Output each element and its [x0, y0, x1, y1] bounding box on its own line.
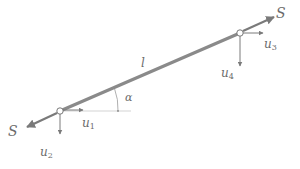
- displacement-label-u4: u4: [221, 66, 234, 81]
- u4-base: u: [221, 66, 229, 80]
- u1-sub: 1: [90, 122, 95, 131]
- u2-base: u: [40, 145, 48, 159]
- u4-sub: 4: [229, 72, 234, 81]
- angle-label: α: [125, 91, 133, 104]
- force-label-left: S: [8, 123, 18, 139]
- truss-element-diagram: l α S S u1 u2 u3 u4: [0, 0, 300, 169]
- force-arrow-right: [243, 17, 274, 31]
- bar-length-label: l: [141, 56, 145, 70]
- u2-sub: 2: [48, 151, 53, 160]
- force-label-right: S: [276, 5, 286, 21]
- angle-arc-tick: [117, 110, 119, 112]
- displacement-label-u2: u2: [40, 145, 53, 160]
- force-arrow-left: [27, 113, 57, 127]
- displacement-label-u3: u3: [264, 37, 277, 52]
- u1-base: u: [82, 116, 90, 130]
- angle-arc: [115, 89, 119, 112]
- bar: [60, 33, 240, 111]
- node-left: [57, 108, 63, 114]
- u3-base: u: [264, 37, 272, 51]
- node-right: [237, 30, 243, 36]
- u3-sub: 3: [272, 43, 277, 52]
- displacement-label-u1: u1: [82, 116, 95, 131]
